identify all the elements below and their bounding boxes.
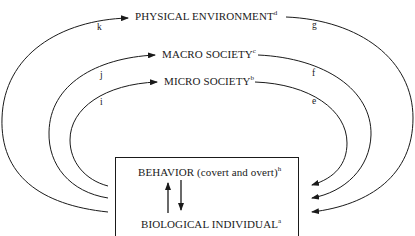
node-biological-individual: BIOLOGICAL INDIVIDUALa bbox=[141, 218, 281, 230]
edge-label-g: g bbox=[312, 20, 317, 30]
node-physical-environment: PHYSICAL ENVIRONMENTd bbox=[135, 10, 277, 22]
edge-label-f: f bbox=[312, 68, 315, 78]
edge-label-k: k bbox=[97, 22, 102, 32]
edge-label-e: e bbox=[312, 96, 316, 106]
arrow-k bbox=[2, 18, 128, 212]
edge-label-i: i bbox=[100, 97, 103, 107]
node-behavior: BEHAVIOR (covert and overt)h bbox=[138, 166, 281, 178]
node-micro-society: MICRO SOCIETYb bbox=[164, 75, 254, 87]
arrow-g bbox=[286, 17, 413, 212]
edge-label-j: j bbox=[100, 70, 103, 80]
node-macro-society: MACRO SOCIETYc bbox=[162, 48, 256, 60]
